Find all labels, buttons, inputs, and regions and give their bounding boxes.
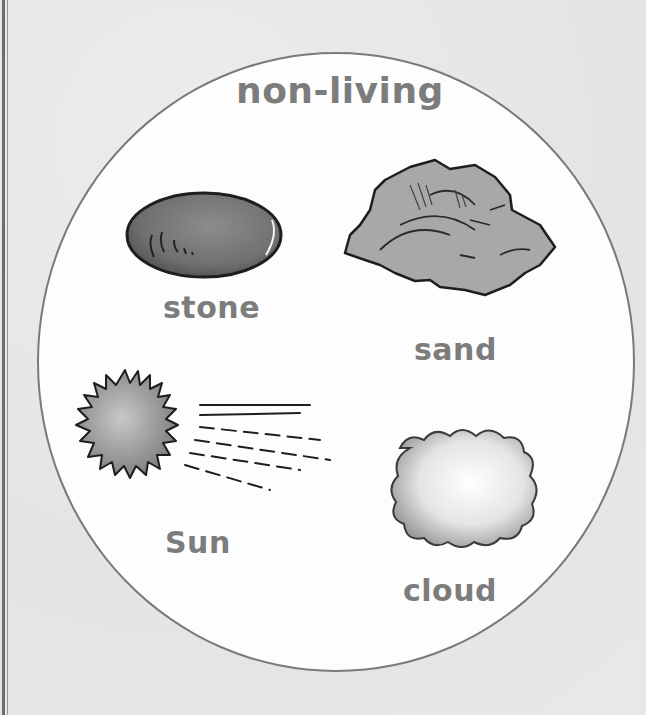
sand-rock-icon (340, 155, 560, 305)
cloud-icon (378, 428, 543, 550)
sand-label: sand (414, 332, 497, 367)
stone-icon (122, 190, 287, 280)
sun-label: Sun (165, 525, 231, 560)
sun-icon (70, 365, 340, 500)
non-living-circle (37, 52, 635, 672)
page-left-border (2, 0, 5, 715)
cloud-label: cloud (403, 573, 497, 608)
stone-label: stone (163, 290, 260, 325)
diagram-title: non-living (236, 70, 444, 111)
